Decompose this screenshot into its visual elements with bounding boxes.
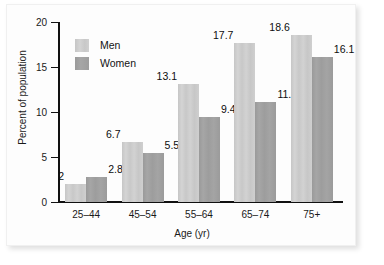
legend: Men Women <box>75 36 136 72</box>
bar-women[interactable]: 9.4 <box>199 117 220 202</box>
figure: Percent of population 0510152022.86.75.5… <box>0 0 384 265</box>
bar-value-label: 6.7 <box>106 128 121 140</box>
y-tick-mark <box>51 157 58 158</box>
y-tick-label: 15 <box>36 62 47 73</box>
legend-swatch-women <box>75 57 89 70</box>
legend-item-men: Men <box>75 36 136 54</box>
x-axis-label: Age (yr) <box>0 228 384 239</box>
bar-group: 13.19.4 <box>178 22 220 202</box>
bar-women[interactable]: 2.8 <box>86 177 107 202</box>
bar-women[interactable]: 16.1 <box>312 57 333 202</box>
bar-men[interactable]: 2 <box>65 184 86 202</box>
y-tick-mark <box>51 22 58 23</box>
x-tick-label: 65–74 <box>227 209 283 220</box>
bar-value-label: 18.6 <box>269 21 289 33</box>
y-tick-label: 0 <box>41 197 47 208</box>
y-tick-mark <box>51 67 58 68</box>
bar-women[interactable]: 5.5 <box>143 153 164 203</box>
bar-value-label: 13.1 <box>157 70 177 82</box>
x-tick-label: 75+ <box>284 209 340 220</box>
bar-men[interactable]: 18.6 <box>291 35 312 202</box>
bar-men[interactable]: 13.1 <box>178 84 199 202</box>
y-tick-mark <box>51 112 58 113</box>
bar-value-label: 2 <box>58 170 64 182</box>
legend-label-men: Men <box>100 39 120 51</box>
y-tick-label: 20 <box>36 17 47 28</box>
legend-item-women: Women <box>75 54 136 72</box>
x-tick-label: 25–44 <box>58 209 114 220</box>
bar-value-label: 2.8 <box>108 163 123 175</box>
y-axis-label: Percent of population <box>17 28 28 168</box>
bar-men[interactable]: 17.7 <box>234 43 255 202</box>
bar-women[interactable]: 11.1 <box>255 102 276 202</box>
bar-value-label: 5.5 <box>165 139 180 151</box>
legend-swatch-men <box>75 39 89 52</box>
y-tick-label: 10 <box>36 107 47 118</box>
bar-group: 17.711.1 <box>234 22 276 202</box>
y-tick-label: 5 <box>41 152 47 163</box>
x-tick-label: 55–64 <box>171 209 227 220</box>
x-tick-label: 45–54 <box>114 209 170 220</box>
bar-value-label: 17.7 <box>213 29 233 41</box>
legend-label-women: Women <box>100 57 136 69</box>
bar-men[interactable]: 6.7 <box>122 142 143 202</box>
y-tick-mark <box>51 202 58 203</box>
bar-value-label: 16.1 <box>334 43 354 55</box>
bar-group: 18.616.1 <box>291 22 333 202</box>
